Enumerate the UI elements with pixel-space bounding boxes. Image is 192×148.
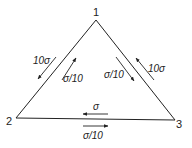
edge-2-3 bbox=[16, 118, 175, 120]
edge-1-2 bbox=[16, 20, 96, 118]
node-label-2: 2 bbox=[6, 115, 12, 127]
labels: 10σσ/10σ/1010σσσ/10123 bbox=[6, 6, 182, 141]
flow-arrows bbox=[38, 57, 154, 126]
flow-label: σ/10 bbox=[104, 69, 124, 80]
flow-label: σ/10 bbox=[63, 73, 83, 84]
flow-label: 10σ bbox=[33, 55, 51, 66]
flow-label: σ/10 bbox=[83, 130, 103, 141]
node-label-3: 3 bbox=[176, 118, 182, 130]
flow-label: 10σ bbox=[148, 63, 166, 74]
flow-label: σ bbox=[93, 101, 100, 112]
triangle-flow-diagram: 10σσ/10σ/1010σσσ/10123 bbox=[0, 0, 192, 148]
node-label-1: 1 bbox=[93, 6, 99, 18]
